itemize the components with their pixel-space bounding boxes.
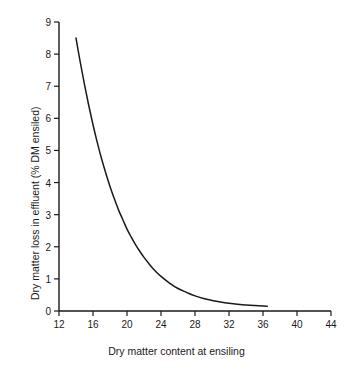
x-axis-tick-label: 12: [53, 319, 64, 330]
x-axis-tick-label: 36: [257, 319, 268, 330]
y-axis-tick-label: 0: [37, 306, 51, 317]
chart-figure: 121620242832364044 0123456789 Dry matter…: [0, 0, 353, 378]
x-axis-tick-label: 28: [189, 319, 200, 330]
y-axis-tick-label: 9: [37, 17, 51, 28]
x-axis-title: Dry matter content at ensiling: [0, 345, 353, 357]
x-axis-tick-label: 16: [87, 319, 98, 330]
x-axis-tick-label: 20: [121, 319, 132, 330]
x-axis-tick-label: 32: [223, 319, 234, 330]
data-series-line: [76, 38, 267, 306]
axis-lines: [59, 22, 331, 311]
y-axis-tick-label: 8: [37, 49, 51, 60]
x-axis-tick-label: 40: [291, 319, 302, 330]
y-axis-title: Dry matter loss in effluent (% DM ensile…: [29, 106, 41, 300]
y-axis-tick-label: 7: [37, 81, 51, 92]
x-axis-tick-label: 24: [155, 319, 166, 330]
x-axis-tick-label: 44: [325, 319, 336, 330]
y-axis-ticks: [54, 22, 59, 311]
x-axis-ticks: [59, 311, 331, 316]
